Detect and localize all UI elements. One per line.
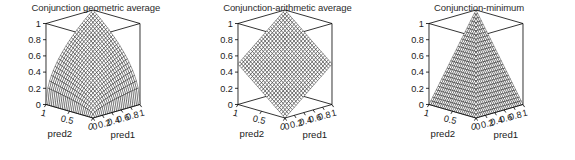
z-axis-tick-label: 1 [419,19,424,29]
z-axis-tick-label: 0.2 [411,84,424,94]
z-axis-tick-label: 0.4 [28,68,41,78]
z-axis-tick-label: 0 [227,100,232,110]
y-axis-tick-label: 1 [423,108,430,119]
y-axis-tick-label: 0.5 [443,114,458,127]
y-axis-tick [259,111,261,114]
x-axis-tick-label: 1 [521,108,528,119]
z-axis-tick-label: 0.6 [28,51,41,61]
x-axis-tick [285,118,287,121]
z-axis-tick-label: 0.8 [28,35,41,45]
y-axis-tick-label: 1 [40,108,47,119]
three-panel-surface-figure: Conjunction geometric average 00.20.40.6… [0,0,575,160]
z-axis-tick-label: 0 [36,100,41,110]
y-axis-tick [475,118,477,121]
x-axis-tick [140,104,142,107]
y-axis-title: pred2 [431,128,456,139]
x-axis-tick [112,113,114,116]
y-axis-title: pred2 [239,128,264,139]
x-axis-tick [313,110,315,113]
y-axis-tick [68,111,70,114]
x-axis-tick [476,118,478,121]
z-axis-tick-label: 0.6 [220,51,233,61]
z-axis-tick-label: 1 [227,19,232,29]
x-axis-tick [93,118,95,121]
surface-plot-minimum: 00.20.40.60.8110.5000.20.40.60.81pred1pr… [383,0,575,160]
x-axis-tick-label: 0.8 [508,109,523,122]
panel-arithmetic-average: Conjunction-arithmetic average 00.20.40.… [192,0,384,160]
x-axis-tick [523,104,525,107]
x-axis-tick [514,107,516,110]
z-axis-tick-label: 0.8 [411,35,424,45]
surface-mesh [429,10,523,118]
x-axis-tick [102,115,104,118]
x-axis-tick [322,107,324,110]
x-axis-title: pred1 [111,129,136,140]
y-axis-tick [91,118,93,121]
z-axis-tick-label: 0.4 [411,68,424,78]
y-axis-tick [283,118,285,121]
z-axis-tick-label: 1 [36,19,41,29]
surface-mesh [46,10,140,118]
surface-plot-arithmetic-average: 00.20.40.60.8110.5000.20.40.60.81pred1pr… [192,0,384,160]
y-axis-title: pred2 [48,128,73,139]
surface-plot-geometric-average: 00.20.40.60.8110.5000.20.40.60.81pred1pr… [0,0,192,160]
z-axis-tick-label: 0.8 [220,35,233,45]
panel-minimum: Conjunction-minimum 00.20.40.60.8110.500… [383,0,575,160]
x-axis-tick-label: 0.8 [125,109,140,122]
x-axis-tick [131,107,133,110]
y-axis-tick-label: 0.5 [251,114,266,127]
x-axis-tick [504,110,506,113]
y-axis-tick-label: 1 [232,108,239,119]
x-axis-tick-label: 1 [138,108,145,119]
panel-geometric-average: Conjunction geometric average 00.20.40.6… [0,0,192,160]
z-axis-tick-label: 0.2 [220,84,233,94]
surface-mesh [238,10,332,118]
x-axis-tick [332,104,334,107]
x-axis-tick [495,113,497,116]
z-axis-tick-label: 0 [419,100,424,110]
z-axis-tick-label: 0.2 [28,84,41,94]
y-axis-tick [451,111,453,114]
x-axis-tick [303,113,305,116]
x-axis-tick [294,115,296,118]
x-axis-title: pred1 [302,129,327,140]
x-axis-tick [121,110,123,113]
x-axis-title: pred1 [494,129,519,140]
y-axis-tick-label: 0.5 [60,114,75,127]
x-axis-tick-label: 0.8 [317,109,332,122]
z-axis-tick-label: 0.6 [411,51,424,61]
x-axis-tick [486,115,488,118]
z-axis-tick-label: 0.4 [220,68,233,78]
x-axis-tick-label: 1 [330,108,337,119]
